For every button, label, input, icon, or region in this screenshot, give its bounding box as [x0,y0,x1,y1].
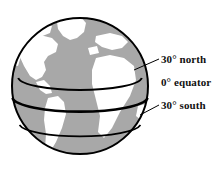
latitude-label-north30: 30° north [161,54,206,65]
latitude-label-equator: 0° equator [161,77,211,88]
globe-figure: 30° north 0° equator 30° south [0,0,222,175]
latitude-label-south30: 30° south [161,100,206,111]
